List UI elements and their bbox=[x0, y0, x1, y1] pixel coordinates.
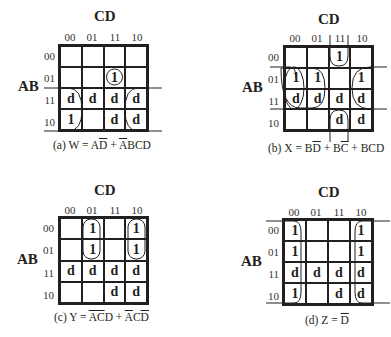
kmap-d: CD AB 00 01 11 10 00 01 11 10 1 1 1 1 d … bbox=[0, 0, 391, 337]
cell: d bbox=[328, 283, 350, 304]
row-label: 00 bbox=[261, 224, 279, 236]
cell: d bbox=[328, 262, 350, 283]
cell: d bbox=[306, 262, 328, 283]
cell bbox=[328, 241, 350, 262]
col-label: 10 bbox=[350, 206, 372, 218]
kmap-d-title: CD bbox=[318, 184, 340, 201]
row-label: 10 bbox=[261, 290, 279, 302]
cell bbox=[306, 283, 328, 304]
cell: d bbox=[284, 262, 306, 283]
caption-text: (d) Z = bbox=[305, 314, 341, 326]
cell: d bbox=[350, 262, 372, 283]
col-label: 01 bbox=[305, 206, 327, 218]
caption-text: D bbox=[341, 314, 349, 326]
cell bbox=[306, 220, 328, 241]
kmap-d-grid: 1 1 1 1 d d d d 1 d d bbox=[282, 218, 374, 306]
cell: d bbox=[350, 283, 372, 304]
cell: 1 bbox=[284, 220, 306, 241]
cell bbox=[328, 220, 350, 241]
row-label: 11 bbox=[261, 268, 279, 280]
cell: 1 bbox=[284, 283, 306, 304]
kmap-d-row-var: AB bbox=[241, 253, 262, 270]
cell: 1 bbox=[284, 241, 306, 262]
cell: 1 bbox=[350, 241, 372, 262]
row-label: 01 bbox=[261, 246, 279, 258]
kmap-d-caption: (d) Z = D bbox=[305, 314, 349, 326]
cell: 1 bbox=[350, 220, 372, 241]
col-label: 00 bbox=[283, 206, 305, 218]
cell bbox=[306, 241, 328, 262]
col-label: 11 bbox=[328, 206, 350, 218]
